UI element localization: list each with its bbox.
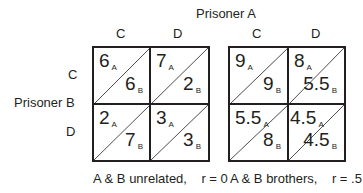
caption-brothers: A & B brothers, r = .5 bbox=[230, 171, 362, 186]
cell-cc: 9A 9B bbox=[230, 48, 288, 104]
cell-dd: 3A 3B bbox=[151, 105, 208, 160]
col-label-d-right: D bbox=[311, 26, 320, 41]
prisoner-b-label: Prisoner B bbox=[14, 95, 75, 110]
prisoner-a-label: Prisoner A bbox=[196, 6, 256, 21]
cell-cd: 8A 5.5B bbox=[289, 48, 344, 104]
caption-unrelated: A & B unrelated, r = 0 bbox=[93, 171, 228, 186]
cell-cd: 7A 2B bbox=[151, 48, 208, 104]
row-label-c: C bbox=[68, 67, 77, 82]
row-label-d: D bbox=[66, 124, 75, 139]
col-label-c-left: C bbox=[116, 26, 125, 41]
cell-cc: 6A 6B bbox=[94, 48, 150, 104]
payoff-matrix-brothers: 9A 9B 8A 5.5B 5.5A 8B 4.5A 4.5B bbox=[228, 46, 346, 162]
col-label-c-right: C bbox=[252, 26, 261, 41]
payoff-matrix-unrelated: 6A 6B 7A 2B 2A 7B 3A 3B bbox=[92, 46, 210, 162]
cell-dc: 5.5A 8B bbox=[230, 105, 288, 160]
cell-dd: 4.5A 4.5B bbox=[289, 105, 344, 160]
cell-dc: 2A 7B bbox=[94, 105, 150, 160]
col-label-d-left: D bbox=[173, 26, 182, 41]
